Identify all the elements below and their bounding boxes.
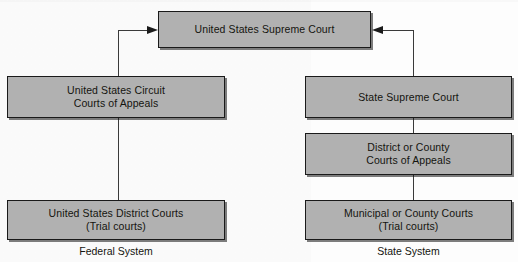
node-state-municipal-county-courts[interactable]: Municipal or County Courts (Trial courts… [305,200,512,240]
caption-state-system: State System [305,245,512,258]
node-federal-appeals-label: United States Circuit Courts of Appeals [67,84,165,110]
node-supreme-court[interactable]: United States Supreme Court [158,11,371,48]
connector-state-appeals-to-supreme [413,117,414,134]
node-federal-district-courts[interactable]: United States District Courts (Trial cou… [7,200,225,240]
connector-federal-district-to-appeals [118,117,119,201]
connector-state-supreme-run [383,30,414,31]
node-state-district-county-appeals[interactable]: District or County Courts of Appeals [305,133,512,175]
node-state-trial-label: Municipal or County Courts (Trial courts… [344,207,473,233]
caption-federal-system: Federal System [7,245,225,258]
court-system-diagram: United States Supreme Court United State… [0,0,518,262]
arrowhead-state-to-supreme-icon [372,26,383,34]
connector-state-supreme-riser [413,30,414,77]
node-federal-circuit-courts-of-appeals[interactable]: United States Circuit Courts of Appeals [7,76,225,118]
node-state-appeals-label: District or County Courts of Appeals [366,141,451,167]
node-supreme-court-label: United States Supreme Court [195,23,335,36]
node-federal-district-label: United States District Courts (Trial cou… [49,207,184,233]
connector-federal-appeals-riser [118,30,119,77]
node-state-supreme-court[interactable]: State Supreme Court [305,76,512,118]
arrowhead-federal-to-supreme-icon [147,26,158,34]
connector-state-trial-to-appeals [413,174,414,201]
node-state-supreme-label: State Supreme Court [358,91,459,104]
connector-federal-appeals-run [118,30,147,31]
